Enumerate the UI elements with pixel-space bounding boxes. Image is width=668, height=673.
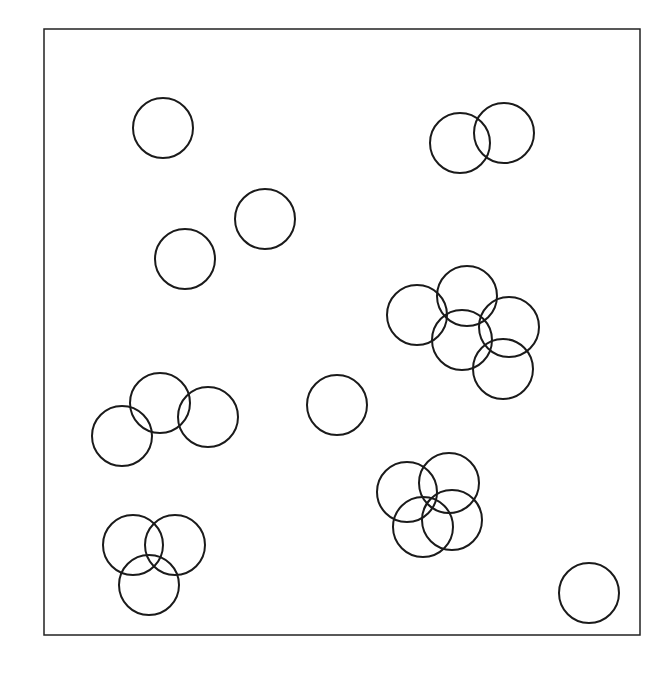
circle-10 <box>473 339 533 399</box>
circle-11 <box>92 406 152 466</box>
circle-21 <box>119 555 179 615</box>
circle-14 <box>307 375 367 435</box>
circle-4 <box>430 113 490 173</box>
circle-3 <box>155 229 215 289</box>
circle-5 <box>474 103 534 163</box>
circle-1 <box>133 98 193 158</box>
circle-2 <box>235 189 295 249</box>
circle-20 <box>145 515 205 575</box>
circle-7 <box>437 266 497 326</box>
circle-22 <box>559 563 619 623</box>
circles-group <box>92 98 619 623</box>
diagram-canvas <box>0 0 668 673</box>
circle-16 <box>419 453 479 513</box>
circle-15 <box>377 462 437 522</box>
